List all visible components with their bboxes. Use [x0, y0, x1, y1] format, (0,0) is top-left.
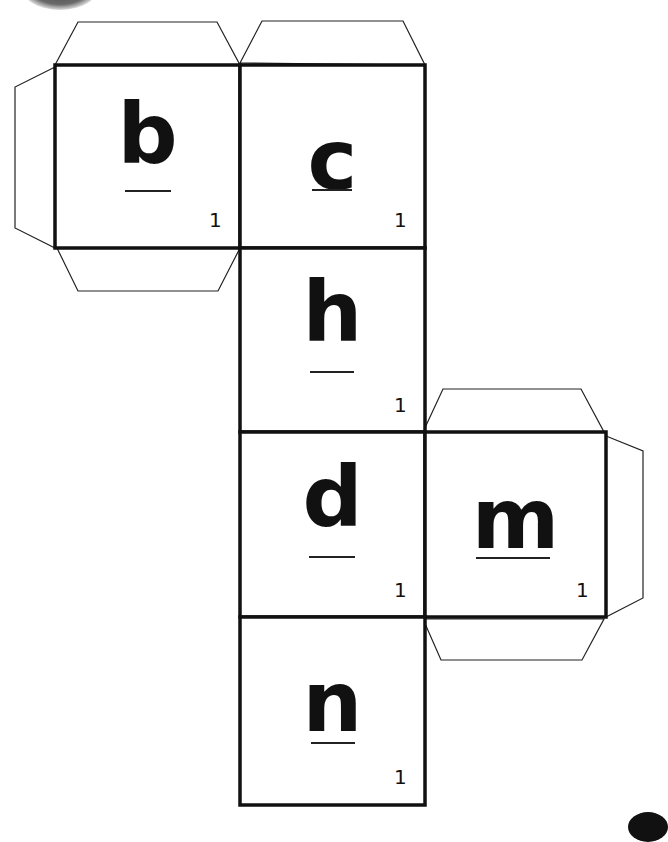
face-letter: m: [423, 477, 608, 561]
letter-underline: [125, 190, 171, 192]
glue-tab-bottom-of-m: [423, 619, 604, 660]
face-letter: d: [240, 455, 425, 539]
face-letter: n: [240, 660, 425, 744]
face-count: 1: [576, 578, 589, 602]
letter-underline: [312, 189, 352, 191]
letter-underline: [311, 742, 355, 744]
glue-tab-top-of-m: [423, 389, 604, 432]
glue-tab-left-of-b: [15, 67, 55, 248]
face-letter: b: [55, 92, 240, 176]
face-count: 1: [394, 393, 407, 417]
glue-tab-top-of-c: [240, 21, 425, 65]
face-count: 1: [209, 208, 222, 232]
glue-tab-top-of-b: [55, 22, 240, 65]
face-letter: h: [240, 270, 425, 354]
face-count: 1: [394, 578, 407, 602]
face-count: 1: [394, 208, 407, 232]
letter-underline: [310, 371, 354, 373]
letter-underline: [309, 556, 355, 558]
face-count: 1: [394, 765, 407, 789]
glue-tab-right-of-m: [606, 436, 643, 617]
glue-tab-bottom-of-b: [57, 248, 240, 291]
letter-underline: [476, 557, 550, 559]
page-number-decoration: [628, 812, 668, 842]
